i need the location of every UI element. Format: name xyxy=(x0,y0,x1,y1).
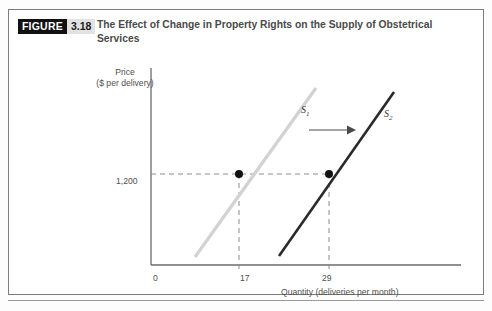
curve-label-s1: S1 xyxy=(301,104,310,118)
x-tick-label-0: 0 xyxy=(153,273,158,283)
supply-curve-s1 xyxy=(195,88,316,257)
x-axis-title: Quantity (deliveries per month) xyxy=(281,287,399,298)
y-axis-title-line1: Price xyxy=(86,67,164,78)
x-tick-label-29: 29 xyxy=(322,273,332,283)
y-axis-title-line2: ($ per delivery) xyxy=(86,78,164,89)
chart-plot-area: Price ($ per delivery) Quantity (deliver… xyxy=(9,10,485,296)
caption-strip xyxy=(8,300,484,311)
figure-page: FIGURE 3.18 The Effect of Change in Prop… xyxy=(0,0,492,311)
x-tick-label-17: 17 xyxy=(240,273,250,283)
shift-arrow-head xyxy=(347,126,356,135)
curve-label-s2: S2 xyxy=(384,108,393,122)
chart-svg xyxy=(9,10,485,296)
figure-frame: FIGURE 3.18 The Effect of Change in Prop… xyxy=(8,9,484,295)
equilibrium-point-1 xyxy=(235,170,243,178)
y-axis-title: Price ($ per delivery) xyxy=(86,67,164,88)
y-tick-label-1200: 1,200 xyxy=(116,176,138,186)
curve-label-s2-subscript: 2 xyxy=(389,114,393,122)
caption-divider-rule xyxy=(8,300,484,301)
equilibrium-point-2 xyxy=(325,170,333,178)
curve-label-s1-subscript: 1 xyxy=(306,110,310,118)
